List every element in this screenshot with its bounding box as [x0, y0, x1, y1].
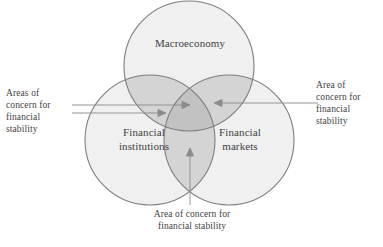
circle-label-financial-institutions: Financial institutions [98, 126, 190, 154]
circle-label-macroeconomy: Macroeconomy [132, 37, 248, 51]
annotation-area-of-concern-right: Area of concern for financial stability [316, 80, 382, 128]
venn-diagram-figure: Macroeconomy Financial institutions Fina… [0, 0, 383, 247]
circle-label-financial-markets: Financial markets [198, 126, 282, 154]
annotation-areas-of-concern-left: Areas of concern for financial stability [6, 88, 72, 136]
annotation-area-of-concern-bottom: Area of concern for financial stability [114, 209, 270, 233]
